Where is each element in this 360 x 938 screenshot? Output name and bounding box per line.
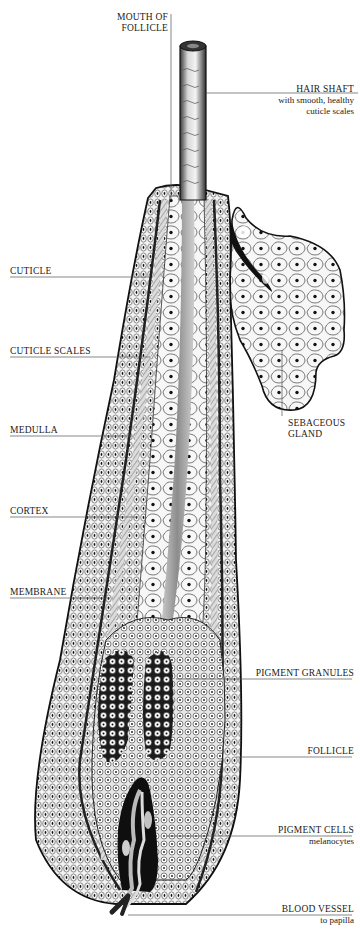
label-follicle: FOLLICLE bbox=[308, 746, 354, 757]
label-hair-shaft: HAIR SHAFT with smooth, healthy cuticle … bbox=[278, 84, 354, 117]
label-cuticle-scales: CUTICLE SCALES bbox=[10, 346, 91, 357]
sebaceous-gland bbox=[230, 207, 345, 410]
label-blood-vessel: BLOOD VESSEL to papilla bbox=[282, 904, 354, 926]
label-mouth-line2: FOLLICLE bbox=[122, 23, 168, 33]
hair-follicle-illustration bbox=[0, 0, 360, 938]
label-pigment-cells-sub: melanocytes bbox=[278, 836, 354, 847]
label-sebaceous-line1: SEBACEOUS bbox=[288, 418, 345, 428]
hair-shaft bbox=[180, 41, 206, 200]
label-blood-vessel-sub: to papilla bbox=[282, 915, 354, 926]
label-hair-shaft-sub2: cuticle scales bbox=[278, 106, 354, 117]
label-hair-shaft-sub1: with smooth, healthy bbox=[278, 95, 354, 106]
label-mouth-of-follicle: MOUTH OF FOLLICLE bbox=[117, 12, 168, 34]
label-pigment-granules: PIGMENT GRANULES bbox=[256, 668, 354, 679]
label-blood-vessel-title: BLOOD VESSEL bbox=[282, 904, 354, 914]
label-hair-shaft-title: HAIR SHAFT bbox=[296, 84, 354, 94]
label-membrane: MEMBRANE bbox=[10, 587, 67, 598]
label-pigment-cells-title: PIGMENT CELLS bbox=[278, 825, 354, 835]
label-mouth-line1: MOUTH OF bbox=[117, 12, 168, 22]
label-sebaceous-line2: GLAND bbox=[288, 429, 322, 439]
label-sebaceous-gland: SEBACEOUS GLAND bbox=[288, 418, 345, 440]
label-cortex: CORTEX bbox=[10, 506, 49, 517]
label-medulla: MEDULLA bbox=[10, 425, 58, 436]
label-pigment-cells: PIGMENT CELLS melanocytes bbox=[278, 825, 354, 847]
label-cuticle: CUTICLE bbox=[10, 266, 52, 277]
